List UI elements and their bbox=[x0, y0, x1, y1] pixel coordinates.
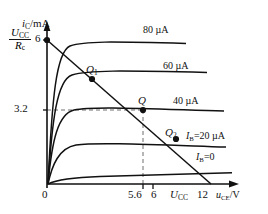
point-label-q2-symbol: Q bbox=[165, 126, 173, 138]
ucc-label: UCC bbox=[170, 189, 188, 200]
ucc-over-rc-fraction: UCC Rc bbox=[9, 27, 31, 51]
fraction-denominator-symbol: R bbox=[15, 39, 22, 51]
curve-label-60ua: 60 µA bbox=[163, 61, 188, 71]
characteristic-curves bbox=[48, 42, 232, 184]
curve-label-0ua: IB=0 bbox=[196, 152, 215, 162]
curve-label-0ua-value: =0 bbox=[204, 151, 215, 162]
fraction-denominator: Rc bbox=[9, 39, 31, 52]
point-label-q: Q bbox=[138, 95, 146, 106]
fraction-numerator: UCC bbox=[9, 27, 31, 39]
point-label-q-symbol: Q bbox=[138, 94, 146, 106]
x-tick-label-6: 6 bbox=[151, 189, 157, 200]
curve-label-40ua: 40 µA bbox=[173, 96, 198, 106]
fraction-numerator-symbol: U bbox=[11, 26, 19, 38]
curve-60ua bbox=[48, 71, 207, 184]
x-axis-arrow bbox=[229, 181, 239, 188]
y-tick-label-3p2: 3.2 bbox=[14, 103, 28, 114]
curve-label-20ua: IB=20 µA bbox=[186, 131, 225, 141]
curve-label-20ua-value: =20 µA bbox=[194, 130, 225, 141]
x-tick-label-12: 12 bbox=[197, 189, 208, 200]
y-tick-label-6: 6 bbox=[35, 33, 41, 44]
marker-q bbox=[140, 107, 146, 113]
fraction-denominator-sub: c bbox=[22, 43, 25, 52]
point-label-q2: Q2 bbox=[165, 127, 177, 138]
x-axis-label: uCE/V bbox=[216, 190, 240, 200]
point-label-q2-sub: 2 bbox=[173, 131, 177, 140]
origin-label: 0 bbox=[42, 189, 48, 200]
curve-label-80ua: 80 µA bbox=[143, 25, 168, 35]
ucc-label-symbol: U bbox=[170, 188, 178, 200]
ucc-label-sub: CC bbox=[178, 193, 188, 202]
curve-label-0ua-sub: B bbox=[199, 156, 204, 163]
curve-label-20ua-sub: B bbox=[189, 135, 194, 142]
x-axis-label-unit: /V bbox=[230, 189, 240, 200]
point-label-q1-sub: 1 bbox=[94, 68, 98, 77]
y-axis-label-unit: /mA bbox=[30, 17, 50, 29]
marker-ucc-over-rc bbox=[44, 37, 50, 43]
x-tick-label-5p6: 5.6 bbox=[128, 189, 142, 200]
point-label-q1: Q1 bbox=[86, 64, 98, 75]
fraction-numerator-sub: CC bbox=[19, 31, 29, 40]
x-axis-label-sub: CE bbox=[221, 194, 230, 201]
point-label-q1-symbol: Q bbox=[86, 63, 94, 75]
